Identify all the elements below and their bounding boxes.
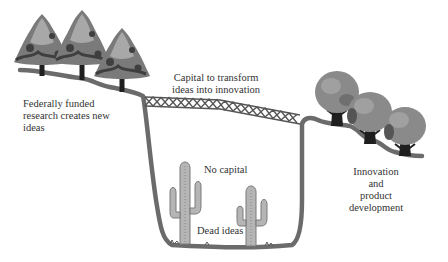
bridge-line-1: Capital to transform xyxy=(172,72,260,84)
right-trees xyxy=(315,71,426,156)
research-label: Federally funded research creates new id… xyxy=(23,98,110,134)
bridge-label: Capital to transform ideas into innovati… xyxy=(172,72,260,96)
innovation-label: Innovation and product development xyxy=(340,166,412,214)
cactus-icon xyxy=(237,186,267,246)
bridge-line-2: ideas into innovation xyxy=(172,84,260,96)
innovation-line-3: product xyxy=(340,190,412,202)
research-line-1: Federally funded xyxy=(23,98,110,110)
innovation-line-1: Innovation xyxy=(340,166,412,178)
left-trees xyxy=(14,10,150,92)
innovation-line-2: and xyxy=(340,178,412,190)
research-line-3: ideas xyxy=(23,122,110,134)
research-line-2: research creates new xyxy=(23,110,110,122)
no-capital-label: No capital xyxy=(204,164,247,176)
tree-icon xyxy=(94,28,150,92)
bridge-truss xyxy=(145,97,300,124)
dead-ideas-label: Dead ideas xyxy=(197,225,243,237)
innovation-line-4: development xyxy=(340,202,412,214)
